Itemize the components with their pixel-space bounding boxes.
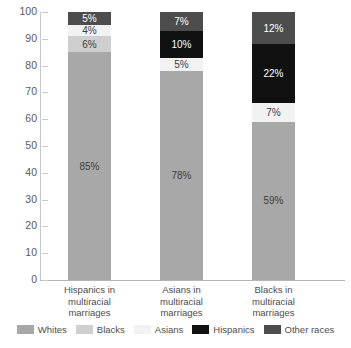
legend-label: Hispanics [213, 324, 254, 335]
y-tick-label: 100 [19, 5, 37, 17]
y-tick-label: 80 [25, 59, 37, 71]
y-tick-label: 60 [25, 112, 37, 124]
y-tick-mark [42, 146, 48, 147]
legend-swatch [264, 325, 281, 334]
category-label-line: multiracial [42, 296, 137, 308]
category-label-line: multiracial [226, 296, 321, 308]
bar-segment-value: 4% [82, 25, 96, 36]
x-axis-line [40, 280, 345, 281]
bar-segment-value: 59% [263, 195, 283, 206]
legend-item-hispanics[interactable]: Hispanics [192, 324, 254, 335]
y-tick-label: 0 [31, 273, 37, 285]
legend-item-blacks[interactable]: Blacks [76, 324, 125, 335]
y-tick-mark [42, 12, 48, 13]
bar-segment-value: 7% [266, 107, 280, 118]
y-tick-mark [42, 66, 48, 67]
y-tick-label: 30 [25, 193, 37, 205]
category-label-1: Hispanics inmultiracialmarriages [42, 284, 137, 319]
bar-segment-value: 22% [263, 68, 283, 79]
category-label-line: marriages [226, 307, 321, 319]
y-tick-label: 50 [25, 139, 37, 151]
category-label-line: Blacks in [226, 284, 321, 296]
y-tick-mark [42, 253, 48, 254]
bar-segment-blacks: 6% [68, 36, 111, 52]
y-tick-0: 0 [2, 280, 48, 281]
bar-segment-whites: 59% [252, 122, 295, 280]
legend-label: Asians [155, 324, 184, 335]
bar-3: 12%22%7%59% [252, 12, 295, 280]
bar-segment-other-races: 7% [160, 12, 203, 31]
y-tick-label: 20 [25, 219, 37, 231]
legend-swatch [192, 325, 209, 334]
legend-swatch [76, 325, 93, 334]
y-tick-70: 70 [2, 92, 48, 93]
y-tick-mark [42, 200, 48, 201]
bar-segment-whites: 78% [160, 71, 203, 280]
category-label-line: Asians in [134, 284, 229, 296]
legend-item-other-races[interactable]: Other races [264, 324, 335, 335]
category-label-line: Hispanics in [42, 284, 137, 296]
bar-segment-value: 5% [82, 13, 96, 24]
bar-segment-value: 6% [82, 39, 96, 50]
y-tick-label: 70 [25, 85, 37, 97]
bar-segment-asians: 7% [252, 103, 295, 122]
y-tick-label: 10 [25, 246, 37, 258]
y-tick-mark [42, 280, 48, 281]
stacked-bar-chart: 1009080706050403020100 5%4%6%85%7%10%5%7… [0, 0, 351, 348]
bar-segment-other-races: 5% [68, 12, 111, 25]
legend-swatch [134, 325, 151, 334]
y-tick-label: 90 [25, 32, 37, 44]
y-tick-50: 50 [2, 146, 48, 147]
chart-legend: WhitesBlacksAsiansHispanicsOther races [0, 324, 351, 335]
legend-label: Blacks [97, 324, 125, 335]
bar-segment-asians: 5% [160, 58, 203, 71]
bar-segment-hispanics: 10% [160, 31, 203, 58]
legend-label: Other races [285, 324, 335, 335]
category-label-line: marriages [42, 307, 137, 319]
bar-2: 7%10%5%78% [160, 12, 203, 280]
category-label-line: marriages [134, 307, 229, 319]
y-tick-mark [42, 226, 48, 227]
category-label-2: Asians inmultiracialmarriages [134, 284, 229, 319]
bar-segment-value: 7% [174, 16, 188, 27]
category-label-line: multiracial [134, 296, 229, 308]
legend-item-whites[interactable]: Whites [17, 324, 67, 335]
y-tick-mark [42, 39, 48, 40]
plot-area: 1009080706050403020100 5%4%6%85%7%10%5%7… [40, 12, 345, 280]
y-tick-mark [42, 92, 48, 93]
bar-segment-value: 85% [79, 161, 99, 172]
bar-segment-other-races: 12% [252, 12, 295, 44]
y-tick-30: 30 [2, 200, 48, 201]
y-tick-mark [42, 119, 48, 120]
legend-item-asians[interactable]: Asians [134, 324, 184, 335]
y-tick-80: 80 [2, 66, 48, 67]
y-tick-mark [42, 173, 48, 174]
y-tick-40: 40 [2, 173, 48, 174]
y-tick-label: 40 [25, 166, 37, 178]
legend-swatch [17, 325, 34, 334]
bar-1: 5%4%6%85% [68, 12, 111, 280]
y-tick-90: 90 [2, 39, 48, 40]
y-tick-100: 100 [2, 12, 48, 13]
category-label-3: Blacks inmultiracialmarriages [226, 284, 321, 319]
legend-label: Whites [38, 324, 67, 335]
bar-segment-hispanics: 22% [252, 44, 295, 103]
bar-segment-value: 5% [174, 59, 188, 70]
bar-segment-whites: 85% [68, 52, 111, 280]
y-tick-60: 60 [2, 119, 48, 120]
bar-segment-value: 10% [171, 39, 191, 50]
y-tick-10: 10 [2, 253, 48, 254]
bar-segment-value: 12% [263, 23, 283, 34]
bar-segment-value: 78% [171, 170, 191, 181]
bar-segment-asians: 4% [68, 25, 111, 36]
y-tick-20: 20 [2, 226, 48, 227]
